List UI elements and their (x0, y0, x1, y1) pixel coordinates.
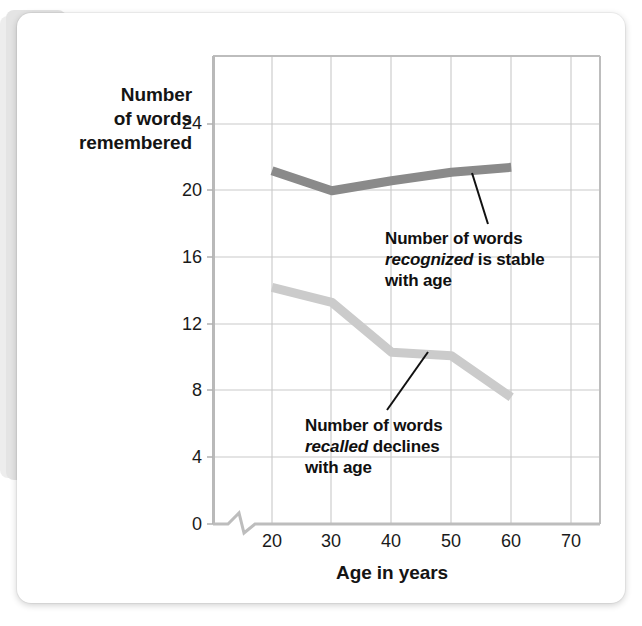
x-axis-spine-with-break (213, 513, 600, 533)
x-tick-label-40: 40 (374, 531, 408, 552)
annotation-recognized-line-3: with age (385, 270, 545, 291)
annotation-recalled-line-3: with age (305, 457, 443, 478)
annotation-recognized-line-1: Number of words (385, 228, 545, 249)
x-tick-label-70: 70 (554, 531, 588, 552)
leader-line-recalled (387, 352, 428, 410)
x-tick-label-60: 60 (494, 531, 528, 552)
y-tick-label-20: 20 (168, 180, 202, 201)
plot-area: Number of words remembered Age in years … (0, 0, 642, 626)
x-tick-label-20: 20 (255, 531, 289, 552)
annotation-recognized-line-2: recognized is stable (385, 249, 545, 270)
leader-line-recognized (472, 173, 488, 224)
y-axis-title-line-3: remembered (52, 131, 192, 155)
annotation-recalled: Number of words recalled declines with a… (305, 415, 443, 478)
annotation-recalled-rest: declines (368, 437, 439, 456)
y-axis-title-line-1: Number (52, 83, 192, 107)
y-tick-label-16: 16 (168, 247, 202, 268)
y-tick-label-12: 12 (168, 314, 202, 335)
annotation-recalled-emphasis: recalled (305, 437, 368, 456)
y-tick-label-0: 0 (168, 514, 202, 535)
y-tick-label-8: 8 (168, 380, 202, 401)
annotation-recalled-line-1: Number of words (305, 415, 443, 436)
series-recalled-line (272, 287, 511, 397)
annotation-recognized-emphasis: recognized (385, 250, 473, 269)
annotation-recognized-rest: is stable (473, 250, 544, 269)
series-recognized-line (272, 167, 511, 190)
x-axis-title: Age in years (262, 562, 522, 584)
x-tick-label-30: 30 (314, 531, 348, 552)
y-tick-label-24: 24 (168, 113, 202, 134)
figure-page: Number of words remembered Age in years … (0, 0, 642, 626)
y-tick-label-4: 4 (168, 447, 202, 468)
x-tick-label-50: 50 (434, 531, 468, 552)
annotation-recalled-line-2: recalled declines (305, 436, 443, 457)
annotation-recognized: Number of words recognized is stable wit… (385, 228, 545, 291)
